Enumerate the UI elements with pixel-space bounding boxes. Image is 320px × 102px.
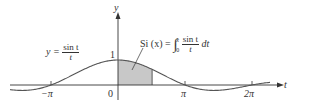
origin-label: 0 <box>108 89 113 99</box>
si-eq-denominator: t <box>182 45 199 54</box>
y-tick-one-label: 1 <box>110 50 115 60</box>
curve-eq-lhs: y = <box>46 46 60 57</box>
t-axis-label: t <box>284 80 287 90</box>
t-axis-arrow-icon <box>277 83 284 88</box>
integral-lower-limit: 0 <box>176 47 179 53</box>
si-eq-lhs: Si (x) = <box>140 38 171 49</box>
y-axis-arrow-icon <box>116 12 121 19</box>
integral-limits: x0 <box>176 37 179 53</box>
curve-equation: y = sin t t <box>46 43 79 62</box>
si-eq-fraction: sin t t <box>182 35 199 54</box>
si-equation: Si (x) = ∫x0 sin t t dt <box>140 35 209 54</box>
si-eq-dt: dt <box>202 38 210 49</box>
x-tick-neg-pi-label: −π <box>41 89 53 99</box>
x-tick-pi-label: π <box>181 89 186 99</box>
x-tick-2pi-label: 2π <box>244 89 254 99</box>
curve-eq-fraction: sin t t <box>62 43 79 62</box>
curve-eq-denominator: t <box>62 53 79 62</box>
integral-upper-limit: x <box>176 37 179 43</box>
y-axis-label: y <box>114 3 118 13</box>
